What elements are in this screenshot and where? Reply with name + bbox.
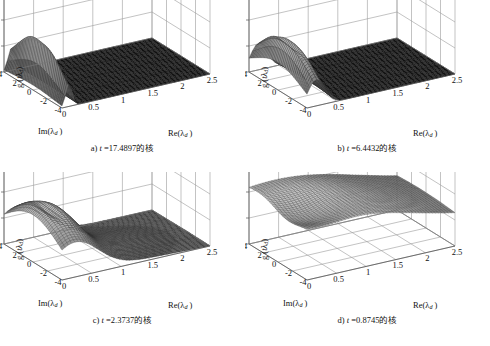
svg-text:1.5: 1.5 (147, 88, 158, 98)
surface-plot-b: 00.511.5420-2-400.511.522.5 (245, 0, 490, 150)
svg-text:-2: -2 (285, 96, 292, 106)
figure-container: 00.511.5420-2-400.511.522.5 g (tλd) Im(λ… (0, 0, 490, 346)
svg-text:2: 2 (425, 253, 429, 263)
panel-b: 00.511.5420-2-400.511.522.5 g (tλd) Re(λ… (245, 0, 490, 173)
bottom-text-fragment (0, 336, 490, 346)
surface-plot-a: 00.511.5420-2-400.511.522.5 (0, 0, 245, 150)
svg-text:1: 1 (121, 95, 125, 105)
surface-plot-d: 00.511.5420-2-400.511.522.5 (245, 172, 490, 322)
svg-text:4: 4 (245, 69, 248, 79)
svg-text:-2: -2 (40, 268, 47, 278)
svg-text:4: 4 (0, 241, 3, 251)
svg-text:0: 0 (272, 87, 276, 97)
svg-text:-2: -2 (285, 268, 292, 278)
panel-c: 00.511.5420-2-400.511.522.5 g (tλd) Im(λ… (0, 172, 245, 345)
svg-text:1.5: 1.5 (392, 260, 403, 270)
caption-d: d) t =0.8745的核 (245, 316, 490, 325)
surface-plot-c: 00.511.5420-2-400.511.522.5 (0, 172, 245, 322)
svg-text:1: 1 (366, 95, 370, 105)
svg-text:2: 2 (180, 81, 184, 91)
svg-text:0.5: 0.5 (88, 274, 99, 284)
svg-text:1: 1 (366, 267, 370, 277)
svg-text:2: 2 (180, 253, 184, 263)
z-axis-label-b: g (tλd) (259, 67, 269, 88)
svg-text:0.5: 0.5 (333, 102, 344, 112)
svg-text:2.5: 2.5 (452, 75, 463, 85)
svg-text:1: 1 (121, 267, 125, 277)
z-axis-label-c: g (tλd) (14, 239, 24, 260)
im-axis-label-a: Im(λd ) (38, 126, 62, 136)
im-axis-label-c: Im(λd ) (38, 298, 62, 308)
svg-text:0: 0 (62, 109, 66, 119)
svg-text:0: 0 (27, 87, 31, 97)
svg-text:0.5: 0.5 (333, 274, 344, 284)
svg-text:2.5: 2.5 (207, 247, 218, 257)
svg-text:1.5: 1.5 (147, 260, 158, 270)
caption-c: c) t =2.3737的核 (0, 316, 245, 325)
z-axis-label-d: g (tλd) (259, 239, 269, 260)
svg-text:0: 0 (62, 281, 66, 291)
re-axis-label-d: Re(λd ) (413, 300, 437, 310)
svg-text:0: 0 (307, 281, 311, 291)
svg-text:2.5: 2.5 (452, 247, 463, 257)
panel-d: 00.511.5420-2-400.511.522.5 g (tλd) Im(λ… (245, 172, 490, 345)
im-axis-label-d: Im(λd ) (283, 298, 307, 308)
svg-text:2: 2 (425, 81, 429, 91)
svg-text:0.5: 0.5 (88, 102, 99, 112)
svg-text:4: 4 (245, 241, 248, 251)
svg-text:1.5: 1.5 (392, 88, 403, 98)
svg-text:0: 0 (307, 109, 311, 119)
panel-a: 00.511.5420-2-400.511.522.5 g (tλd) Im(λ… (0, 0, 245, 173)
re-axis-label-b: Re(λd ) (413, 128, 437, 138)
z-axis-label-a: g (tλd) (14, 67, 24, 88)
caption-a: a) t =17.4897的核 (0, 144, 245, 153)
caption-b: b) t =6.4432的核 (245, 144, 490, 153)
svg-text:2.5: 2.5 (207, 75, 218, 85)
svg-text:-2: -2 (40, 96, 47, 106)
svg-text:0: 0 (27, 259, 31, 269)
re-axis-label-c: Re(λd ) (168, 300, 192, 310)
svg-text:0: 0 (272, 259, 276, 269)
svg-text:4: 4 (0, 69, 3, 79)
re-axis-label-a: Re(λd ) (168, 128, 192, 138)
